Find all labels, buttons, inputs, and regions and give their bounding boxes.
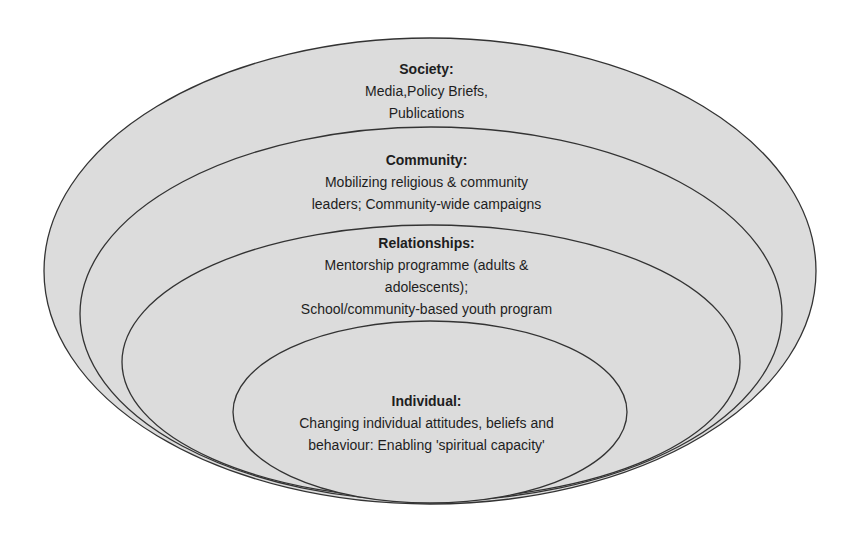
society-line-1: Media,Policy Briefs, [0, 80, 853, 102]
community-label: Community: Mobilizing religious & commun… [0, 149, 853, 215]
community-line-2: leaders; Community-wide campaigns [0, 193, 853, 215]
relationships-line-1: Mentorship programme (adults & [0, 254, 853, 276]
society-line-2: Publications [0, 102, 853, 124]
individual-label: Individual: Changing individual attitude… [0, 390, 853, 456]
relationships-line-2: adolescents); [0, 276, 853, 298]
individual-title: Individual: [0, 390, 853, 412]
relationships-label: Relationships: Mentorship programme (adu… [0, 232, 853, 320]
society-label: Society: Media,Policy Briefs, Publicatio… [0, 58, 853, 124]
relationships-line-3: School/community-based youth program [0, 298, 853, 320]
community-title: Community: [0, 149, 853, 171]
relationships-title: Relationships: [0, 232, 853, 254]
community-line-1: Mobilizing religious & community [0, 171, 853, 193]
individual-line-1: Changing individual attitudes, beliefs a… [0, 412, 853, 434]
individual-line-2: behaviour: Enabling 'spiritual capacity' [0, 434, 853, 456]
society-title: Society: [0, 58, 853, 80]
